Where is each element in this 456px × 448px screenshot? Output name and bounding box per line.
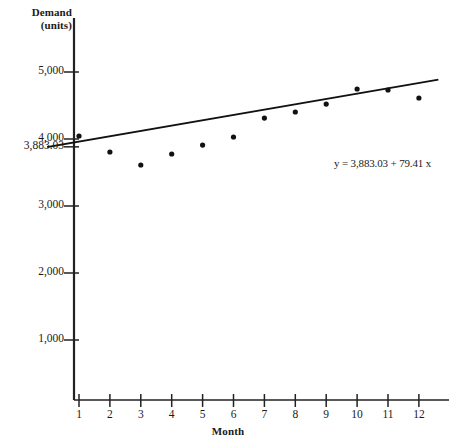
x-tick-label: 12 <box>407 408 431 420</box>
data-point <box>107 149 112 154</box>
data-point <box>355 86 360 91</box>
x-tick-label: 6 <box>222 408 246 420</box>
y-tick-label: 2,000 <box>2 265 64 277</box>
data-point <box>416 95 421 100</box>
data-point <box>169 151 174 156</box>
y-tick-label: 3,000 <box>2 198 64 210</box>
x-tick-label: 5 <box>191 408 215 420</box>
data-point <box>200 142 205 147</box>
data-point <box>231 134 236 139</box>
data-point <box>385 87 390 92</box>
data-point <box>76 133 81 138</box>
regression-trend-line <box>48 80 437 147</box>
data-point <box>138 162 143 167</box>
data-point <box>324 101 329 106</box>
chart-container: Demand (units) Month y = 3,883.03 + 79.4… <box>0 0 456 448</box>
data-point <box>293 109 298 114</box>
x-tick-label: 1 <box>67 408 91 420</box>
plot-area <box>0 0 456 448</box>
x-tick-label: 10 <box>345 408 369 420</box>
y-tick-label-intercept: 3,883.03 <box>2 139 64 151</box>
data-point-group <box>76 86 421 167</box>
x-tick-label: 11 <box>376 408 400 420</box>
y-tick-label: 1,000 <box>2 332 64 344</box>
data-point <box>262 115 267 120</box>
x-tick-label: 8 <box>283 408 307 420</box>
x-tick-label: 9 <box>314 408 338 420</box>
x-tick-label: 2 <box>98 408 122 420</box>
x-tick-label: 3 <box>129 408 153 420</box>
y-tick-label: 5,000 <box>2 64 64 76</box>
x-tick-label: 7 <box>252 408 276 420</box>
y-axis-ticks <box>64 72 79 340</box>
x-tick-label: 4 <box>160 408 184 420</box>
